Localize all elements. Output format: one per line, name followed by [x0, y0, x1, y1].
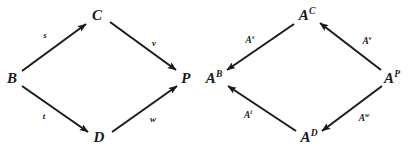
diagram-canvas — [0, 0, 409, 149]
node-left-P: P — [181, 71, 190, 86]
arrow-left-t — [22, 86, 88, 132]
node-right-AD: AD — [300, 130, 317, 145]
arrow-right-Aw — [322, 86, 382, 131]
edge-label-superscript-right-Av: v — [369, 34, 372, 41]
edge-label-left-w: w — [150, 115, 156, 124]
arrow-left-s — [22, 24, 86, 71]
node-left-B: B — [7, 71, 17, 86]
arrow-right-As — [227, 24, 294, 70]
edge-lines — [22, 22, 382, 132]
edge-label-right-Aw: Aw — [359, 114, 370, 124]
node-right-AC: AC — [299, 8, 316, 23]
edge-label-right-Av: Av — [362, 37, 371, 47]
node-left-D: D — [93, 130, 104, 145]
edge-label-left-t: t — [43, 112, 46, 121]
node-superscript-right-AP: P — [394, 69, 400, 79]
arrow-left-w — [112, 86, 177, 132]
arrow-left-v — [110, 22, 176, 70]
edge-label-left-v: v — [152, 39, 156, 48]
edge-label-left-s: s — [43, 31, 47, 40]
edge-label-right-As: As — [246, 36, 255, 46]
edge-label-right-At: At — [244, 111, 252, 121]
node-right-AP: AP — [384, 71, 400, 86]
edge-label-superscript-right-As: s — [252, 33, 255, 40]
node-left-C: C — [92, 8, 102, 23]
node-superscript-right-AC: C — [309, 6, 315, 16]
commutative-diagram-figure: BCDPABACADAP svtwAsAvAtAw — [0, 0, 409, 149]
arrow-right-At — [228, 86, 296, 131]
node-superscript-right-AD: D — [311, 128, 318, 138]
node-right-AB: AB — [206, 71, 223, 86]
node-superscript-right-AB: B — [216, 69, 222, 79]
edge-label-superscript-right-Aw: w — [365, 111, 369, 118]
edge-label-superscript-right-At: t — [250, 108, 252, 115]
arrow-right-Av — [320, 23, 381, 70]
